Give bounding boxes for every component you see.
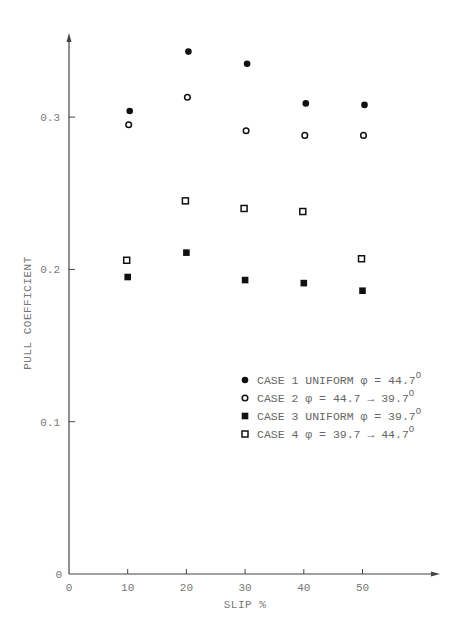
legend-item-label: CASE 2 φ = 44.7 → 39.7O: [257, 389, 414, 405]
data-point-filled-circle-icon: [126, 108, 133, 115]
x-tick-label: 30: [238, 582, 251, 594]
pull-coefficient-chart: 00.10.20.3 01020304050 SLIP % PULL COEFF…: [0, 0, 461, 636]
data-point-filled-square-icon: [183, 249, 190, 256]
data-point-filled-square-icon: [242, 277, 249, 284]
data-point-filled-circle-icon: [303, 100, 310, 107]
y-ticks: 00.10.20.3: [40, 112, 75, 581]
axes: [67, 33, 441, 577]
x-axis-title: SLIP %: [224, 599, 267, 611]
data-point-open-square-icon: [182, 198, 188, 204]
data-point-filled-square-icon: [359, 287, 366, 294]
data-point-filled-circle-icon: [185, 48, 192, 55]
legend-filled-square-icon: [242, 413, 249, 420]
y-tick-label: 0.2: [40, 264, 60, 276]
legend-open-circle-icon: [242, 395, 248, 401]
x-tick-label: 40: [297, 582, 310, 594]
data-point-open-square-icon: [241, 205, 247, 211]
data-point-filled-square-icon: [301, 280, 308, 287]
y-tick-label: 0: [55, 569, 62, 581]
legend-open-square-icon: [242, 431, 248, 437]
x-tick-label: 10: [121, 582, 134, 594]
legend-filled-circle-icon: [242, 377, 249, 384]
legend-item-label: CASE 4 φ = 39.7 → 44.7O: [257, 425, 414, 441]
y-tick-label: 0.1: [40, 417, 60, 429]
legend-item-label: CASE 1 UNIFORM φ = 44.7O: [257, 371, 421, 387]
data-point-filled-circle-icon: [244, 60, 251, 67]
y-axis-arrow-icon: [67, 33, 72, 42]
legend: CASE 1 UNIFORM φ = 44.7OCASE 2 φ = 44.7 …: [242, 371, 421, 441]
x-ticks: 01020304050: [66, 569, 369, 594]
data-point-open-circle-icon: [243, 128, 249, 134]
x-tick-label: 20: [180, 582, 193, 594]
data-point-open-square-icon: [124, 257, 130, 263]
legend-item-label: CASE 3 UNIFORM φ = 39.7O: [257, 407, 421, 423]
x-tick-label: 50: [356, 582, 369, 594]
x-tick-label: 0: [66, 582, 73, 594]
data-points: [124, 48, 368, 294]
y-tick-label: 0.3: [40, 112, 60, 124]
x-axis-arrow-icon: [431, 572, 440, 577]
data-point-open-square-icon: [300, 209, 306, 215]
data-point-filled-circle-icon: [361, 102, 368, 109]
data-point-open-circle-icon: [302, 133, 308, 139]
data-point-open-square-icon: [359, 256, 365, 262]
y-axis-title: PULL COEFFICIENT: [22, 256, 34, 370]
data-point-filled-square-icon: [124, 274, 131, 281]
data-point-open-circle-icon: [361, 133, 367, 139]
data-point-open-circle-icon: [126, 122, 132, 128]
data-point-open-circle-icon: [185, 95, 191, 101]
